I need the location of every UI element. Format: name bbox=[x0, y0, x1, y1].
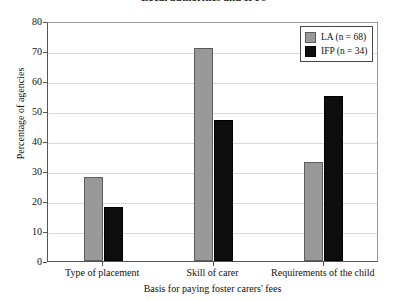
x-axis-category-label: Requirements of the child bbox=[243, 266, 403, 279]
chart-title-strip: Local authorities and IFPs bbox=[0, 0, 407, 9]
legend-swatch-ifp bbox=[305, 46, 316, 57]
bar-la-0 bbox=[84, 177, 103, 261]
bar-la-2 bbox=[304, 162, 323, 261]
x-axis-title: Basis for paying foster carers' fees bbox=[47, 283, 378, 294]
bar-ifp-0 bbox=[104, 207, 123, 261]
x-axis-category-labels: Type of placementSkill of carerRequireme… bbox=[47, 266, 378, 282]
legend-item: LA (n = 68) bbox=[305, 30, 367, 44]
legend-item: IFP (n = 34) bbox=[305, 44, 367, 58]
bar-ifp-1 bbox=[214, 120, 233, 261]
bar-ifp-2 bbox=[324, 96, 343, 261]
y-axis-tick-marks bbox=[0, 22, 47, 262]
chart-legend: LA (n = 68)IFP (n = 34) bbox=[300, 26, 373, 62]
legend-swatch-la bbox=[305, 32, 316, 43]
legend-label: LA (n = 68) bbox=[321, 32, 366, 43]
chart-title: Local authorities and IFPs bbox=[0, 0, 407, 3]
legend-label: IFP (n = 34) bbox=[321, 46, 367, 57]
bar-la-1 bbox=[194, 48, 213, 261]
